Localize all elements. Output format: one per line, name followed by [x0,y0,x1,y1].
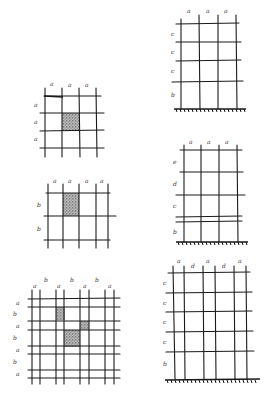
row-label: c [171,67,175,74]
col-label: a [68,81,72,88]
col-label: a [187,7,191,14]
row-label: a [34,135,38,142]
col-label: b [70,276,74,283]
row-label: b [13,358,17,365]
col-label: b [44,276,48,283]
row-label: b [37,225,41,232]
shaded-cell [62,113,79,131]
row-label: a [16,322,20,329]
row-label: c [173,202,177,209]
grid-panel-6: a d a d a c c c c b [163,257,260,383]
row-label: c [163,318,167,325]
shaded-cell [64,330,80,347]
col-label: a [85,81,89,88]
grid-panel-4: a a a e d c b [173,138,248,245]
col-label: a [207,138,211,145]
row-label: b [173,228,177,235]
row-label: b [37,201,41,208]
col-label: d [222,262,226,269]
col-label: a [177,257,181,264]
col-label: a [68,177,72,184]
grid-panel-3: a a a a b b [37,177,116,248]
ground-hatch [176,242,248,245]
row-label: b [163,360,167,367]
ground-hatch [165,379,260,383]
row-label: c [163,279,167,286]
row-label: a [16,346,20,353]
col-label: a [206,7,210,14]
col-label: a [100,177,104,184]
row-label: a [16,370,20,377]
grid-panel-2: a a a c c c b [171,7,246,112]
row-label: e [173,158,177,165]
col-label: a [224,7,228,14]
col-label: a [53,177,57,184]
grid-panel-1: a a a a a a [34,80,104,157]
col-label: a [108,282,112,289]
row-label: c [171,30,175,37]
col-label: a [206,257,210,264]
col-label: a [83,282,87,289]
row-label: c [163,299,167,306]
sketch-canvas: a a a a a a a a a c c c b [0,0,265,407]
col-label: a [57,282,61,289]
row-label: c [171,48,175,55]
row-label: a [16,299,20,306]
row-label: a [34,118,38,125]
ground-hatch [174,109,246,112]
row-label: b [13,310,17,317]
col-label: a [33,282,37,289]
col-label: a [85,177,89,184]
col-label: d [191,262,195,269]
shaded-cell [63,193,79,216]
col-label: a [238,257,242,264]
grid-panel-5: a b a b a b a a b a b a b a [13,276,120,384]
col-label: b [95,276,99,283]
col-label: a [189,138,193,145]
col-label: a [225,138,229,145]
row-label: b [171,91,175,98]
shaded-cell [80,321,89,330]
row-label: a [34,101,38,108]
col-label: a [50,80,54,87]
row-label: d [173,180,177,187]
row-label: b [13,334,17,341]
row-label: c [163,338,167,345]
